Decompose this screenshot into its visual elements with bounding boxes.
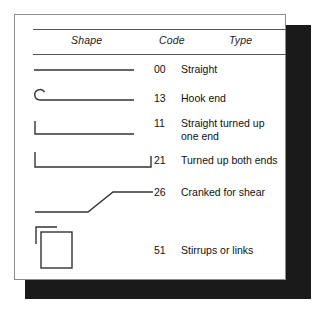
code-cell: 26 <box>154 186 166 198</box>
column-header-code: Code <box>159 34 185 46</box>
type-cell: Hook end <box>181 92 226 105</box>
shape-cell <box>33 177 158 219</box>
table-row: 51 Stirrups or links <box>15 222 287 274</box>
table-card: Shape Code Type 00 Straight 13 <box>14 14 286 280</box>
type-cell: Straight turned up one end <box>181 117 264 142</box>
table-row: 00 Straight <box>15 61 287 87</box>
column-header-shape: Shape <box>71 34 102 46</box>
type-cell: Stirrups or links <box>181 244 253 257</box>
shape-cell <box>33 117 138 139</box>
code-cell: 13 <box>154 92 166 104</box>
column-header-type: Type <box>229 34 252 46</box>
shape-cell <box>33 222 93 274</box>
code-cell: 00 <box>154 63 166 75</box>
shape-cell <box>33 88 138 106</box>
shape-cell <box>33 63 138 77</box>
table-header: Shape Code Type <box>33 29 286 55</box>
code-cell: 11 <box>154 117 165 129</box>
table-row: 21 Turned up both ends <box>15 146 287 175</box>
bar-schedule-figure: Shape Code Type 00 Straight 13 <box>0 0 324 312</box>
turned-up-one-end-bar-icon <box>33 117 138 139</box>
code-cell: 21 <box>154 154 166 166</box>
straight-bar-icon <box>33 63 138 77</box>
type-cell: Turned up both ends <box>181 154 278 167</box>
turned-up-both-ends-bar-icon <box>33 148 158 172</box>
hook-end-bar-icon <box>33 88 138 106</box>
type-cell: Cranked for shear <box>181 186 265 199</box>
table-row: 13 Hook end <box>15 88 287 115</box>
table-row: 26 Cranked for shear <box>15 177 287 222</box>
type-cell: Straight <box>181 63 217 76</box>
stirrup-link-icon <box>33 222 93 274</box>
header-rule-bottom <box>33 54 286 55</box>
header-rule-top <box>33 29 286 30</box>
cranked-bar-icon <box>33 177 158 219</box>
table-row: 11 Straight turned up one end <box>15 116 287 146</box>
code-cell: 51 <box>154 244 166 256</box>
shape-cell <box>33 148 158 172</box>
